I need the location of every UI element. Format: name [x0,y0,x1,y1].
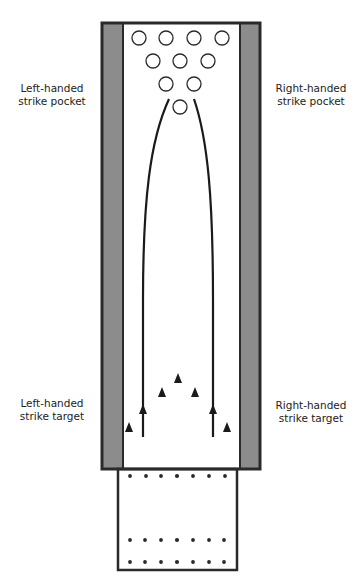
approach-dots [128,474,227,564]
approach-outline [118,469,237,570]
right-strike-target-label: Right-handed strike target [261,399,361,425]
pin-deck [132,31,229,114]
target-arrow-icon [191,387,199,397]
pin-3 [187,77,201,91]
path-arrowheads [139,404,217,414]
left-hand-ball-path [143,99,169,437]
approach [118,469,237,570]
left-strike-target-label: Left-handed strike target [2,397,102,423]
lane [102,23,260,469]
left-path-arrow-icon [139,404,147,414]
target-arrow-icon [125,422,133,432]
pin-8 [159,31,173,45]
pin-9 [187,31,201,45]
pin-5 [173,54,187,68]
right-hand-ball-path [194,99,213,437]
right-gutter [240,23,260,469]
lane-outline [102,23,260,469]
pin-1 [173,100,187,114]
target-arrow-icon [174,373,182,383]
left-gutter [102,23,123,469]
target-arrows [125,373,231,432]
ball-paths [143,99,213,437]
target-arrow-icon [223,422,231,432]
left-strike-pocket-label: Left-handed strike pocket [2,82,102,108]
pin-4 [146,54,160,68]
target-arrow-icon [158,387,166,397]
pin-2 [159,77,173,91]
right-path-arrow-icon [209,404,217,414]
pin-7 [132,31,146,45]
right-strike-pocket-label: Right-handed strike pocket [261,82,361,108]
pin-10 [215,31,229,45]
pin-6 [201,54,215,68]
